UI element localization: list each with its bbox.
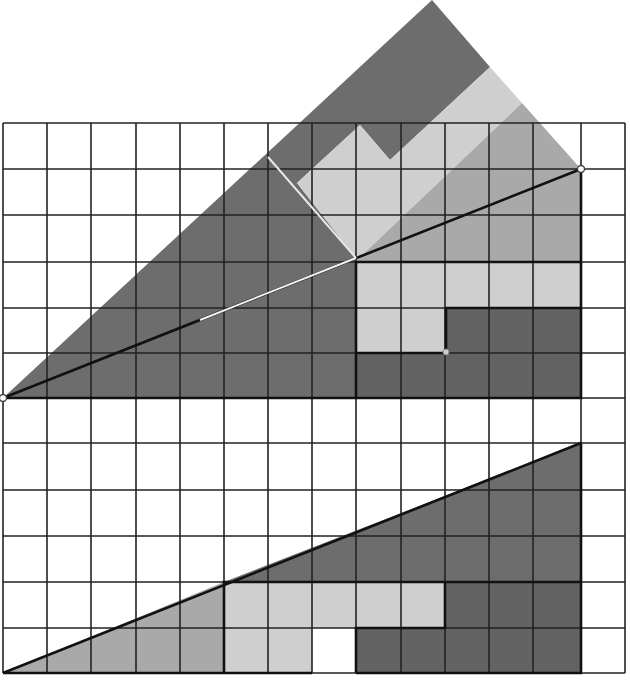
diagram-canvas	[0, 0, 630, 698]
missing-square	[312, 628, 356, 673]
top-right-vertex-marker	[578, 166, 585, 173]
missing-square-diagram	[0, 0, 630, 698]
top-corner-marker	[443, 349, 449, 355]
top-left-vertex-marker	[0, 395, 7, 402]
top-figure	[3, 0, 581, 398]
